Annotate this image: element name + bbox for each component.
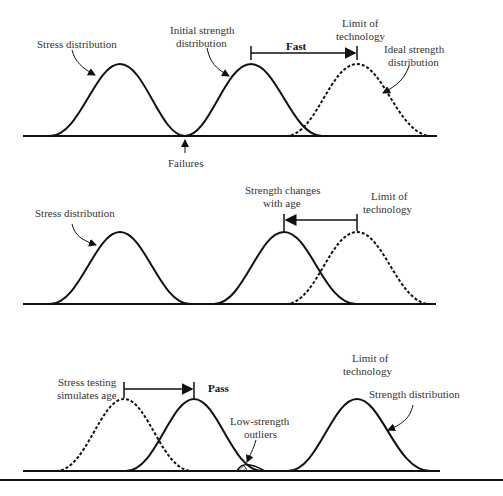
initial-strength-label-1: Initial strength [170, 24, 234, 37]
stress-pointer [72, 50, 95, 75]
stress-testing-label-2: simulates age [57, 389, 117, 402]
initial-strength-curve [185, 64, 322, 136]
stress-label: Stress distribution [35, 207, 115, 220]
strength-label: Strength distribution [369, 388, 460, 401]
panel-fast [23, 46, 437, 153]
limit-label-2: technology [336, 30, 385, 43]
outliers-label-2: outliers [244, 428, 277, 441]
limit-label-1: Limit of [371, 190, 407, 203]
stress-testing-label-1: Stress testing [58, 376, 116, 389]
ideal-strength-curve [286, 64, 432, 136]
fast-label: Fast [286, 40, 306, 53]
limit-label-2: technology [363, 203, 412, 216]
pass-label: Pass [208, 382, 229, 395]
limit-label-2: technology [343, 365, 392, 378]
ideal-label-1: Ideal strength [384, 43, 444, 56]
panel-aging [23, 214, 436, 304]
ideal-label-2: distribution [388, 56, 439, 69]
initial-strength-label-2: distribution [176, 37, 227, 50]
changes-label-2: with age [263, 197, 301, 210]
stress-label: Stress distribution [37, 38, 117, 51]
changes-label-1: Strength changes [245, 184, 320, 197]
stress-curve [50, 64, 185, 136]
outliers-label-1: Low-strength [230, 415, 289, 428]
failures-label: Failures [168, 157, 203, 170]
limit-label-1: Limit of [352, 352, 388, 365]
limit-label-1: Limit of [342, 17, 378, 30]
